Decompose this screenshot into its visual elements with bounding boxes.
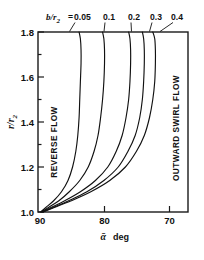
y-tick-label-1.8: 1.8 xyxy=(21,27,34,38)
series-label-1: 0.1 xyxy=(103,12,115,22)
y-axis-title-main: r/r xyxy=(5,118,16,129)
y-tick-label-1.4: 1.4 xyxy=(21,117,35,128)
annotation-reverse-flow-label: REVERSE FLOW xyxy=(50,106,59,178)
annotation-outward-swirl-flow: OUTWARD SWIRL FLOW xyxy=(172,75,181,181)
legend-equals: = xyxy=(68,12,73,22)
x-axis-title-symbol: ᾱ xyxy=(100,231,106,242)
y-axis-title: r/r2 xyxy=(5,114,19,129)
series-label-2: 0.2 xyxy=(128,12,140,22)
x-tick-label-70: 70 xyxy=(164,215,175,226)
x-axis-title-unit: deg xyxy=(113,232,129,242)
y-tick-label-1.6: 1.6 xyxy=(21,72,34,83)
y-axis-title-sub: 2 xyxy=(11,114,19,119)
chart-plot: 1.8 1.6 1.4 1.2 1.0 90 80 70 r/r2 ᾱ deg… xyxy=(0,0,204,260)
series-label-3: 0.3 xyxy=(150,12,162,22)
x-tick-label-80: 80 xyxy=(99,215,110,226)
x-tick-label-90: 90 xyxy=(35,215,46,226)
svg-text:b/r2: b/r2 xyxy=(46,12,61,25)
curve-0.05 xyxy=(41,32,82,212)
x-axis-ticks xyxy=(105,206,170,212)
y-axis-ticks xyxy=(38,32,44,212)
plot-frame xyxy=(38,32,188,212)
legend-leader-lines xyxy=(70,23,174,32)
figure-container: 1.8 1.6 1.4 1.2 1.0 90 80 70 r/r2 ᾱ deg… xyxy=(0,0,204,260)
legend-header: b/r2 = xyxy=(46,12,73,25)
svg-text:r/r2: r/r2 xyxy=(5,114,19,129)
series-label-0: 0.05 xyxy=(74,12,91,22)
x-axis-title: ᾱ deg xyxy=(100,231,129,242)
annotation-reverse-flow: REVERSE FLOW xyxy=(50,106,59,178)
y-tick-label-1.0: 1.0 xyxy=(21,207,34,218)
legend-title-main: b/r xyxy=(46,12,57,22)
series-label-4: 0.4 xyxy=(171,12,183,22)
legend-title-sub: 2 xyxy=(56,17,61,25)
annotation-outward-swirl-flow-label: OUTWARD SWIRL FLOW xyxy=(172,75,181,181)
y-tick-label-1.2: 1.2 xyxy=(21,162,34,173)
